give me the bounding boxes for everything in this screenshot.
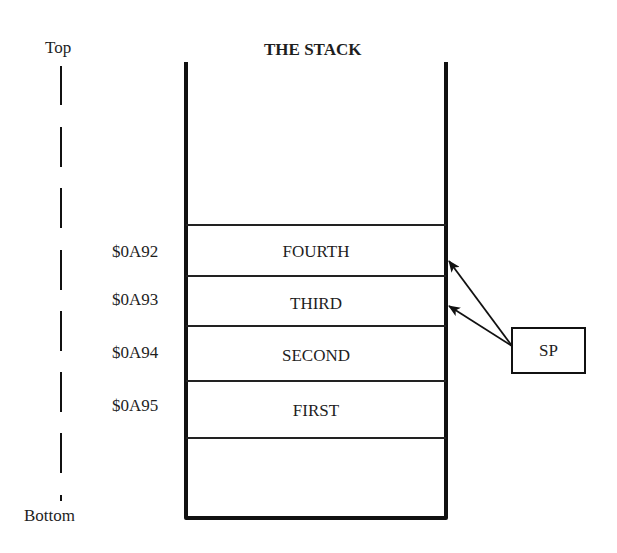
diagram-title: THE STACK xyxy=(264,41,361,58)
sp-arrow-to-fourth xyxy=(449,261,512,346)
stack-cell-content: SECOND xyxy=(188,347,444,364)
top-label: Top xyxy=(45,39,71,56)
stack-cell-content: THIRD xyxy=(188,295,444,312)
sp-label: SP xyxy=(512,342,585,359)
stack-cell-content: FIRST xyxy=(188,402,444,419)
stack-cell-content: FOURTH xyxy=(188,243,444,260)
sp-arrow-to-third xyxy=(449,306,512,346)
address-label: $0A92 xyxy=(112,243,158,260)
address-label: $0A93 xyxy=(112,291,158,308)
stack-diagram-graphics xyxy=(0,0,617,553)
stack-container xyxy=(186,62,446,518)
address-label: $0A94 xyxy=(112,344,158,361)
address-label: $0A95 xyxy=(112,397,158,414)
bottom-label: Bottom xyxy=(24,507,75,524)
